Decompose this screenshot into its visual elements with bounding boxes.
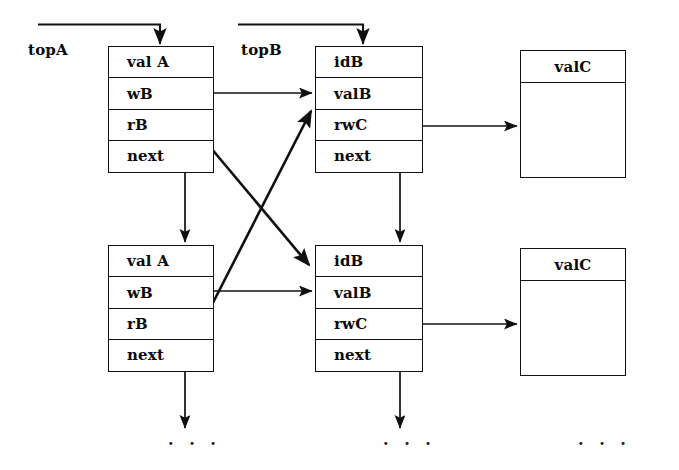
a-node-top-row-next: next bbox=[109, 141, 213, 171]
ellipsis-b: · · · bbox=[383, 434, 436, 453]
a-node-bottom-row-rB: rB bbox=[109, 309, 213, 340]
c-node-top-header: valC bbox=[521, 51, 625, 83]
a-node-top: val A wB rB next bbox=[108, 46, 214, 173]
b-node-top-row-rwC: rwC bbox=[316, 110, 422, 141]
pointer-label-topB: topB bbox=[241, 41, 282, 59]
pointer-label-topA: topA bbox=[28, 41, 68, 59]
a-node-top-row-wB: wB bbox=[109, 78, 213, 110]
b-node-bottom: idB valB rwC next bbox=[315, 245, 423, 372]
ellipsis-c: · · · bbox=[578, 434, 631, 453]
a-node-bottom-row-wB: wB bbox=[109, 277, 213, 309]
b-node-bottom-row-idB: idB bbox=[316, 246, 422, 277]
a-node-bottom-row-next: next bbox=[109, 340, 213, 370]
c-node-bottom: valC bbox=[520, 248, 626, 376]
b-node-top-row-valB: valB bbox=[316, 78, 422, 110]
arrow-rB-bottom-to-b-node-top bbox=[198, 111, 311, 332]
b-node-top-row-idB: idB bbox=[316, 47, 422, 78]
diagram-canvas: topA topB val A wB rB next idB valB rwC … bbox=[0, 0, 679, 470]
b-node-top: idB valB rwC next bbox=[315, 46, 423, 173]
c-node-top-body bbox=[521, 83, 625, 177]
b-node-top-row-next: next bbox=[316, 141, 422, 171]
ellipsis-a: · · · bbox=[168, 434, 221, 453]
c-node-top: valC bbox=[520, 50, 626, 178]
b-node-bottom-row-valB: valB bbox=[316, 277, 422, 309]
a-node-top-row-rB: rB bbox=[109, 110, 213, 141]
a-node-bottom-row-valA: val A bbox=[109, 246, 213, 277]
a-node-top-row-valA: val A bbox=[109, 47, 213, 78]
a-node-bottom: val A wB rB next bbox=[108, 245, 214, 372]
c-node-bottom-body bbox=[521, 281, 625, 375]
b-node-bottom-row-next: next bbox=[316, 340, 422, 370]
c-node-bottom-header: valC bbox=[521, 249, 625, 281]
b-node-bottom-row-rwC: rwC bbox=[316, 309, 422, 340]
